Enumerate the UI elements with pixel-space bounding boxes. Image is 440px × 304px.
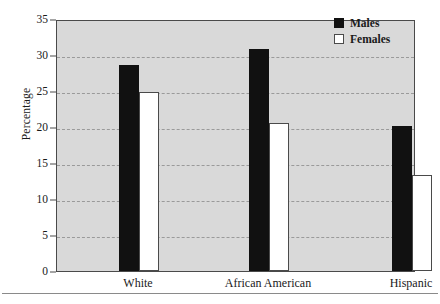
bar-females-hispanic (412, 175, 432, 271)
chart-legend: MalesFemales (334, 15, 434, 47)
gridline (57, 93, 414, 94)
y-axis-tick-label: 15 (37, 158, 49, 170)
plot-area (56, 20, 415, 272)
x-axis-tick-label: White (123, 276, 152, 291)
bar-males-white (119, 65, 139, 271)
legend-item-males: Males (334, 15, 434, 31)
legend-item-females: Females (334, 31, 434, 47)
bar-males-african-american (249, 49, 269, 271)
bottom-rule-divider (2, 293, 438, 294)
gridline (57, 129, 414, 130)
y-axis-tick-label: 0 (42, 266, 48, 278)
y-axis-tick-label: 25 (37, 86, 49, 98)
gridline (57, 165, 414, 166)
bar-females-african-american (269, 123, 289, 271)
filled-square-icon (334, 18, 344, 28)
y-axis-tick-label: 5 (42, 230, 48, 242)
gridline (57, 201, 414, 202)
y-axis-tick-label: 35 (37, 14, 49, 26)
legend-item-label: Males (350, 17, 379, 29)
x-axis-tick-label: Hispanic (390, 276, 433, 291)
gridline (57, 237, 414, 238)
y-axis-tick-label: 10 (37, 194, 49, 206)
bar-females-white (139, 92, 159, 271)
gridline (57, 57, 414, 58)
y-axis-tick-label: 30 (37, 50, 49, 62)
bar-males-hispanic (392, 126, 412, 271)
y-axis-tick-label: 20 (37, 122, 49, 134)
bar-chart-figure: 05101520253035 Percentage WhiteAfrican A… (0, 0, 440, 304)
empty-square-icon (334, 34, 344, 44)
y-axis-title: Percentage (20, 64, 32, 164)
legend-item-label: Females (350, 33, 390, 45)
x-axis-tick-label: African American (225, 276, 311, 291)
